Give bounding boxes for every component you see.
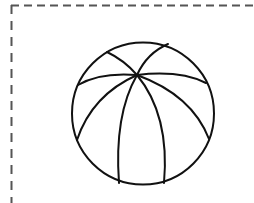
dashed-frame: [11, 5, 254, 203]
illustration-canvas: [0, 0, 254, 203]
ball-seam: [107, 52, 137, 75]
ball-seam: [137, 44, 168, 75]
ball-seam: [77, 75, 137, 140]
ball-seam: [137, 75, 165, 183]
ball-seam: [137, 75, 209, 139]
ball-seam: [118, 75, 137, 183]
beach-ball-icon: [72, 43, 214, 185]
